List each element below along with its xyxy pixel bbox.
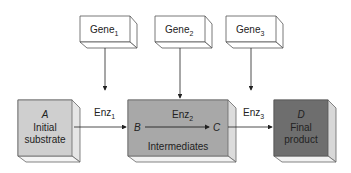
intermediates-box: Enz2 B C Intermediates — [128, 100, 236, 162]
svg-text:D: D — [297, 109, 304, 120]
gene-1-box: Gene1 — [80, 16, 137, 48]
svg-text:product: product — [284, 134, 318, 145]
svg-text:C: C — [213, 122, 221, 133]
enzyme-1-label: Enz1 — [94, 107, 115, 120]
svg-text:Initial: Initial — [33, 122, 56, 133]
metabolic-pathway-diagram: Gene1 Gene2 Gene3 A Initial substrate En… — [0, 0, 351, 173]
svg-text:A: A — [41, 109, 49, 120]
svg-text:B: B — [134, 122, 141, 133]
enzyme-3-label: Enz3 — [243, 107, 264, 120]
svg-text:substrate: substrate — [24, 134, 66, 145]
final-product-box: D Final product — [274, 100, 336, 162]
svg-text:Final: Final — [290, 122, 312, 133]
initial-substrate-box: A Initial substrate — [18, 100, 80, 162]
gene-3-box: Gene3 — [226, 16, 283, 48]
gene-2-box: Gene2 — [155, 16, 212, 48]
svg-text:Intermediates: Intermediates — [148, 141, 209, 152]
